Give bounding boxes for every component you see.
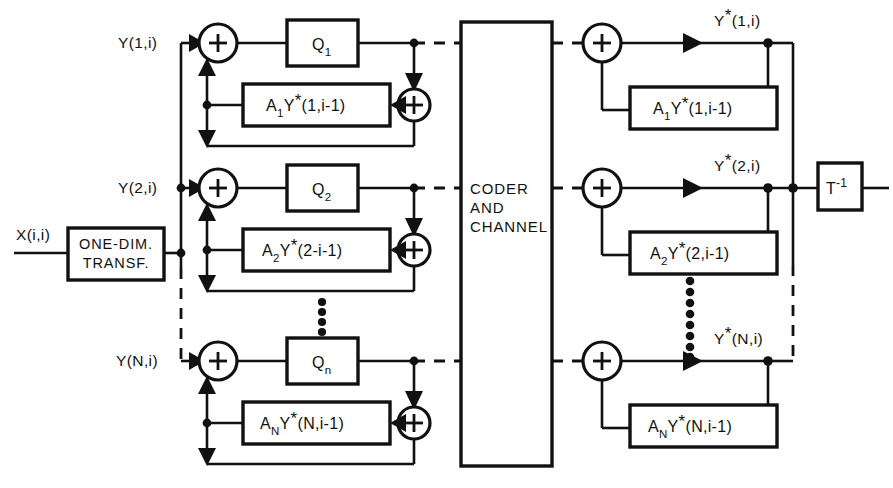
decoder-ellipsis-dot-3 (686, 299, 695, 308)
coder-label-line3: CHANNEL (470, 218, 548, 235)
decoder-row-2-output-arrowhead (683, 178, 703, 198)
encoder-ellipsis-dot-2 (318, 308, 326, 316)
transform-box-line1: ONE-DIM. (79, 236, 153, 252)
decoder-row-1-output-arrowhead (683, 33, 703, 53)
decoder-ellipsis-dot-6 (686, 332, 695, 341)
decoder-row-2: Y*(2,i) A2Y*(2,i-1) (552, 151, 777, 274)
decoder-ellipsis-dot-1 (686, 277, 695, 286)
decoder-row-3: Y*(N,i) ANY*(N,i-1) (552, 324, 777, 447)
encoder-row-2: Y(2,i) Q2 A2Y*(2-i-1) (118, 165, 461, 293)
decoder-vertical-ellipsis (686, 277, 695, 362)
decoder-ellipsis-dot-7 (686, 343, 695, 352)
diagram-svg: X(i,i) ONE-DIM. TRANSF. Y(1,i) Q1 (0, 0, 893, 488)
encoder-ellipsis-dot-4 (318, 328, 326, 336)
encoder-vertical-ellipsis (318, 298, 326, 336)
coder-label-line1: CODER (470, 180, 529, 197)
encoder-row-1: Y(1,i) Q1 A1Y*(1,i-1) (118, 20, 461, 148)
coder-and-channel-box[interactable] (461, 22, 552, 466)
row-3-input-label: Y(N,i) (116, 352, 158, 369)
decoder-ellipsis-dot-2 (686, 288, 695, 297)
decoder-ellipsis-dot-5 (686, 321, 695, 330)
output-collector-section: T-1 (768, 43, 889, 361)
decoder-row-1: Y*(1,i) A1Y*(1,i-1) (552, 6, 777, 129)
block-diagram-canvas: X(i,i) ONE-DIM. TRANSF. Y(1,i) Q1 (0, 0, 893, 488)
transform-box-line2: TRANSF. (83, 255, 150, 271)
row-1-input-label: Y(1,i) (118, 34, 157, 51)
input-label: X(i,i) (16, 226, 50, 243)
decoder-row-3-output-label: Y*(N,i) (714, 324, 763, 347)
decoder-row-2-output-label: Y*(2,i) (714, 151, 760, 174)
decoder-row-1-output-label: Y*(1,i) (714, 6, 760, 29)
decoder-ellipsis-dot-4 (686, 310, 695, 319)
coder-and-channel-section: CODER AND CHANNEL (461, 22, 552, 466)
encoder-ellipsis-dot-3 (318, 318, 326, 326)
encoder-row-3: Y(N,i) Qn ANY*(N,i-1) (116, 338, 461, 466)
coder-label-line2: AND (470, 199, 504, 216)
encoder-ellipsis-dot-1 (318, 298, 326, 306)
input-section: X(i,i) ONE-DIM. TRANSF. (14, 43, 185, 361)
row-2-input-label: Y(2,i) (118, 179, 157, 196)
